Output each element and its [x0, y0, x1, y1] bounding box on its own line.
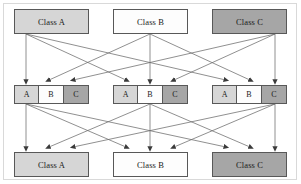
middle-cell-1-b[interactable]: B — [39, 86, 63, 103]
bottom-class-box-b[interactable]: Class B — [113, 152, 188, 177]
middle-cell-label: C — [271, 90, 276, 99]
middle-cell-label: B — [246, 90, 251, 99]
class-box-label: Class C — [236, 17, 263, 27]
edge-class-b-to-g3B — [150, 34, 249, 80]
edge-class-a-to-g2A — [26, 34, 125, 80]
middle-cell-label: C — [73, 90, 78, 99]
bottom-class-box-a[interactable]: Class A — [14, 152, 89, 177]
middle-cell-2-a[interactable]: A — [114, 86, 138, 103]
middle-group-3: ABC — [212, 85, 287, 104]
middle-group-2: ABC — [113, 85, 188, 104]
middle-cell-3-c[interactable]: C — [262, 86, 286, 103]
class-box-label: Class A — [38, 160, 65, 170]
class-routing-diagram: Class AClass BClass C ABCABCABC Class AC… — [0, 0, 301, 184]
edge-class-b-to-g1B — [50, 34, 150, 80]
top-class-box-c[interactable]: Class C — [212, 9, 287, 34]
middle-cell-2-c[interactable]: C — [163, 86, 187, 103]
edge-class-c-to-g2C — [175, 34, 275, 80]
middle-cell-label: A — [222, 90, 228, 99]
middle-cell-3-b[interactable]: B — [237, 86, 261, 103]
edge-g1-to-class-b — [26, 104, 125, 147]
class-box-label: Class B — [137, 17, 164, 27]
edge-class-a-to-g3A — [26, 34, 224, 80]
middle-cell-label: B — [48, 90, 53, 99]
middle-group-1: ABC — [14, 85, 89, 104]
middle-cell-label: C — [172, 90, 177, 99]
edge-g1-to-class-c — [26, 104, 224, 147]
top-class-box-a[interactable]: Class A — [14, 9, 89, 34]
top-class-box-b[interactable]: Class B — [113, 9, 188, 34]
middle-cell-1-a[interactable]: A — [15, 86, 39, 103]
middle-cell-2-b[interactable]: B — [138, 86, 162, 103]
middle-cell-label: B — [147, 90, 152, 99]
middle-cell-3-a[interactable]: A — [213, 86, 237, 103]
edge-g2-to-class-c — [150, 104, 249, 147]
bottom-class-box-c[interactable]: Class C — [212, 152, 287, 177]
class-box-label: Class C — [236, 160, 263, 170]
middle-cell-1-c[interactable]: C — [64, 86, 88, 103]
middle-cell-label: A — [123, 90, 129, 99]
edge-g3-to-class-a — [75, 104, 275, 147]
class-box-label: Class A — [38, 17, 65, 27]
edge-g3-to-class-b — [175, 104, 275, 147]
edge-class-c-to-g1C — [75, 34, 275, 80]
middle-cell-label: A — [24, 90, 30, 99]
edge-g2-to-class-a — [50, 104, 150, 147]
class-box-label: Class B — [137, 160, 164, 170]
